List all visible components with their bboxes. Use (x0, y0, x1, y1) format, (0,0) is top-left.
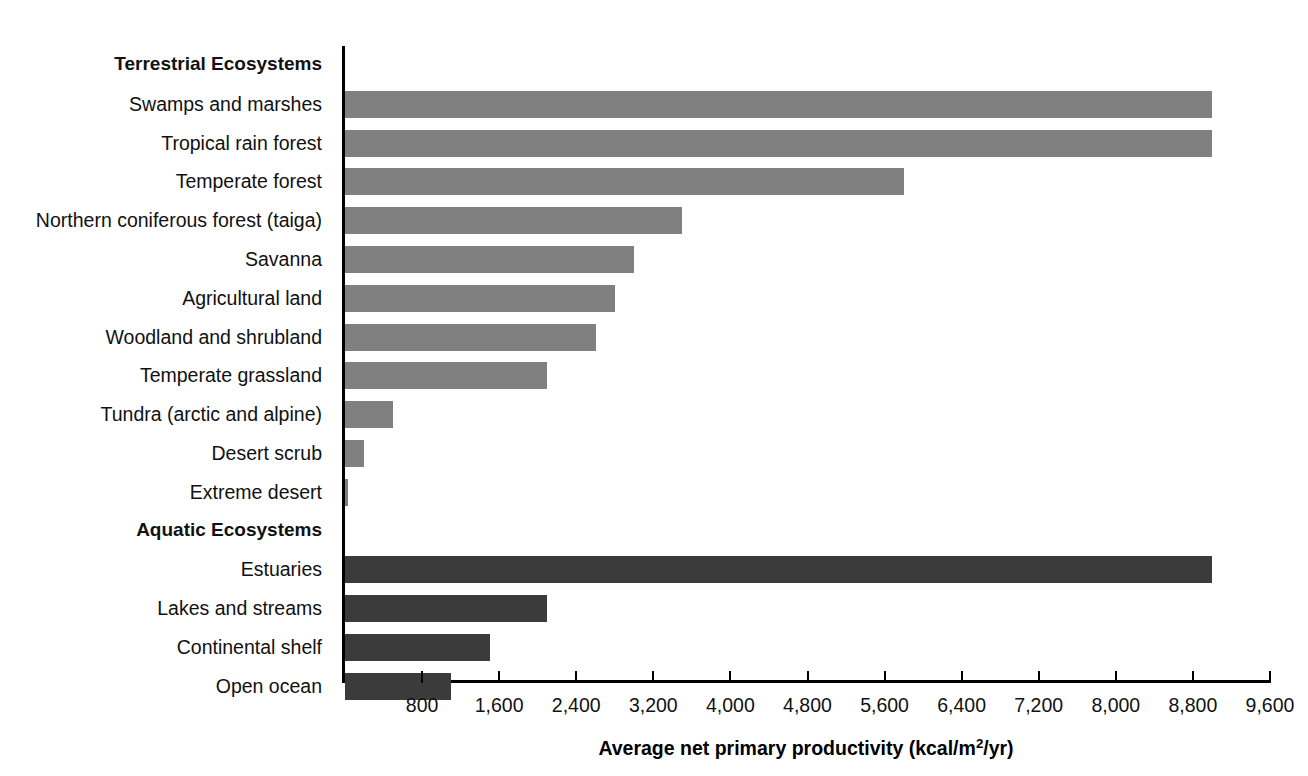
category-label: Tropical rain forest (0, 133, 322, 153)
category-label: Desert scrub (0, 443, 322, 463)
x-axis-tick-label: 7,200 (1014, 694, 1063, 716)
x-axis-tick-label: 2,400 (552, 694, 601, 716)
bar (345, 401, 393, 428)
x-axis-tick (498, 671, 500, 683)
bar (345, 207, 682, 234)
category-label: Northern coniferous forest (taiga) (0, 210, 322, 230)
x-axis-tick-label: 9,600 (1246, 694, 1295, 716)
plot-area: 8001,6002,4003,2004,0004,8005,6006,4007,… (342, 46, 1270, 683)
bar (345, 362, 547, 389)
bar-chart-figure: Terrestrial EcosystemsSwamps and marshes… (0, 0, 1308, 776)
category-label: Temperate grassland (0, 365, 322, 385)
x-axis-tick (884, 671, 886, 683)
x-axis-tick (1269, 671, 1271, 683)
x-axis-tick-label: 4,800 (783, 694, 832, 716)
bar (345, 440, 364, 467)
x-axis-tick-label: 3,200 (629, 694, 678, 716)
x-axis-tick (652, 671, 654, 683)
category-label: Woodland and shrubland (0, 327, 322, 347)
category-label: Agricultural land (0, 288, 322, 308)
group-heading-label: Terrestrial Ecosystems (0, 54, 322, 74)
bar (345, 168, 904, 195)
category-label: Extreme desert (0, 482, 322, 502)
bar (345, 246, 634, 273)
category-label: Estuaries (0, 559, 322, 579)
category-label: Lakes and streams (0, 598, 322, 618)
x-axis-tick (807, 671, 809, 683)
x-axis-title: Average net primary productivity (kcal/m… (342, 737, 1270, 760)
x-axis-tick (961, 671, 963, 683)
bar (345, 595, 547, 622)
x-axis-tick-label: 8,000 (1091, 694, 1140, 716)
x-axis-tick (1038, 671, 1040, 683)
category-label: Savanna (0, 249, 322, 269)
x-axis-tick-label: 800 (406, 694, 439, 716)
category-label: Temperate forest (0, 171, 322, 191)
category-label: Continental shelf (0, 637, 322, 657)
x-axis-tick (575, 671, 577, 683)
category-label: Swamps and marshes (0, 94, 322, 114)
bar (345, 479, 348, 506)
category-label: Open ocean (0, 676, 322, 696)
x-axis-tick-label: 6,400 (937, 694, 986, 716)
superscript-two: 2 (976, 736, 983, 751)
bar (345, 91, 1212, 118)
x-axis-tick-label: 4,000 (706, 694, 755, 716)
x-axis-tick (421, 671, 423, 683)
bar (345, 556, 1212, 583)
category-label: Tundra (arctic and alpine) (0, 404, 322, 424)
group-heading-label: Aquatic Ecosystems (0, 520, 322, 540)
x-axis-tick-label: 1,600 (475, 694, 524, 716)
bar (345, 285, 615, 312)
bar (345, 634, 490, 661)
bar (345, 324, 596, 351)
bar (345, 130, 1212, 157)
x-axis-tick (729, 671, 731, 683)
x-axis-tick-label: 8,800 (1169, 694, 1218, 716)
x-axis-tick (1115, 671, 1117, 683)
x-axis-tick (1192, 671, 1194, 683)
x-axis-tick-label: 5,600 (860, 694, 909, 716)
